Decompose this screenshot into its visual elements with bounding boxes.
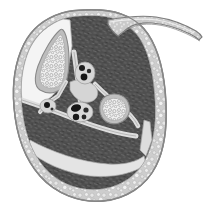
fibula-marrow xyxy=(103,98,126,120)
muscle-mass xyxy=(21,16,155,190)
neurovascular-bundle-medial xyxy=(40,99,56,113)
neurovascular-bundle-central xyxy=(67,102,93,122)
cross-section-illustration xyxy=(0,0,210,215)
anatomical-figure xyxy=(0,0,210,215)
fibula-bone xyxy=(100,94,130,124)
neurovascular-bundle-anterior xyxy=(75,62,95,84)
